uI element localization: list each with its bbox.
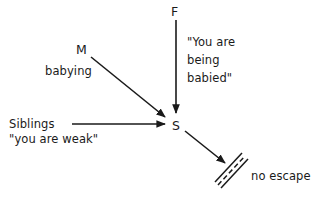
edge-s-to-barrier: [185, 131, 225, 163]
edge-label-babying: babying: [45, 65, 92, 78]
edge-label-babied-line3: babied": [187, 72, 232, 85]
edge-m-to-s: [91, 57, 165, 117]
edge-label-you-are-weak: "you are weak": [9, 133, 98, 146]
node-m: M: [76, 43, 87, 56]
node-f: F: [171, 5, 178, 18]
edge-label-no-escape: no escape: [251, 170, 311, 183]
node-s: S: [172, 119, 180, 132]
edge-label-babied-line1: "You are: [187, 36, 235, 49]
node-siblings: Siblings: [9, 118, 55, 131]
edge-label-babied-line2: being: [187, 54, 220, 67]
